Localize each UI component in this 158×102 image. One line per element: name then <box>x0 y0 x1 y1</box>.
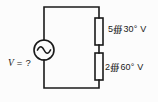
source-label: V = ? <box>8 58 31 68</box>
element-box-2 <box>95 53 103 80</box>
element-2-label: 2∰60° V <box>105 62 144 72</box>
circuit-diagram: 5∰30° V 2∰60° V V = ? <box>0 0 158 102</box>
circuit-strokes <box>34 7 103 88</box>
wire-loop <box>44 7 99 88</box>
sine-wave-icon <box>38 47 51 54</box>
circuit-drawing <box>0 0 158 102</box>
element-box-1 <box>95 18 103 45</box>
source-label-equals-unknown: = ? <box>14 57 31 68</box>
element-1-label: 5∰30° V <box>108 24 147 34</box>
